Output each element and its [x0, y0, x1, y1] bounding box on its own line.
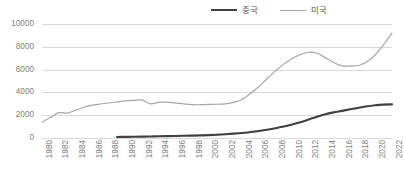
x-axis-tick-label: 1982: [62, 140, 70, 158]
x-axis-tick-label: 2014: [329, 140, 337, 158]
x-axis-tick-label: 2020: [379, 140, 387, 158]
legend-swatch-usa-icon: [280, 10, 306, 11]
legend-label-china: 중국: [242, 6, 258, 15]
x-axis-tick-label: 2002: [229, 140, 237, 158]
x-axis-tick-label: 1986: [96, 140, 104, 158]
x-axis-tick-label: 2010: [296, 140, 304, 158]
series-line-china: [117, 104, 392, 137]
y-axis: 0200040006000800010000: [0, 24, 38, 138]
x-axis-tick-label: 1984: [79, 140, 87, 158]
x-axis-tick-label: 1990: [129, 140, 137, 158]
legend-label-usa: 미국: [311, 6, 327, 15]
legend-swatch-china-icon: [211, 9, 237, 11]
y-axis-tick-label: 8000: [16, 43, 34, 51]
x-axis-tick-label: 2012: [312, 140, 320, 158]
series-lines: [42, 24, 392, 138]
chart-legend: 중국 미국: [0, 2, 398, 18]
x-axis-tick-label: 2022: [396, 140, 404, 158]
y-axis-tick-label: 10000: [11, 20, 34, 28]
plot-area: [42, 24, 392, 138]
x-axis-tick-label: 2006: [262, 140, 270, 158]
y-axis-tick-label: 4000: [16, 88, 34, 96]
y-axis-tick-label: 0: [29, 134, 34, 142]
x-axis-tick-label: 2000: [212, 140, 220, 158]
y-axis-tick-label: 6000: [16, 65, 34, 73]
x-axis-tick-label: 1996: [179, 140, 187, 158]
x-axis-tick-label: 1998: [196, 140, 204, 158]
x-axis: 1980198219841986198819901992199419961998…: [42, 140, 392, 176]
y-axis-tick-label: 2000: [16, 111, 34, 119]
legend-item-usa[interactable]: 미국: [280, 6, 327, 15]
gridline: [42, 138, 392, 139]
x-axis-tick-label: 2008: [279, 140, 287, 158]
x-axis-tick-label: 2016: [346, 140, 354, 158]
legend-item-china[interactable]: 중국: [211, 6, 258, 15]
x-axis-tick-label: 1994: [162, 140, 170, 158]
x-axis-tick-label: 2004: [246, 140, 254, 158]
x-axis-tick-label: 1992: [146, 140, 154, 158]
x-axis-tick-label: 1988: [112, 140, 120, 158]
x-axis-tick-label: 1980: [46, 140, 54, 158]
x-axis-tick-label: 2018: [362, 140, 370, 158]
series-line-usa: [42, 33, 392, 122]
